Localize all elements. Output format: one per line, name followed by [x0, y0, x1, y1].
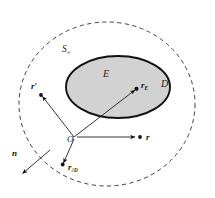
point-r	[138, 135, 142, 139]
vector-n-line	[23, 150, 51, 174]
point-r-prime	[39, 93, 43, 97]
label-e: E	[102, 68, 109, 79]
label-d: D	[160, 78, 169, 89]
label-vector-n: n	[12, 148, 17, 158]
figure-container: S∞ D E O r′ rE r r∂D n	[0, 0, 215, 198]
inner-region-e	[66, 56, 170, 118]
label-vector-r-dd: r∂D	[68, 162, 78, 173]
label-vector-r-prime: r′	[31, 81, 38, 91]
point-r-dd	[61, 163, 65, 167]
geometry-diagram: S∞ D E O r′ rE r r∂D n	[0, 0, 215, 198]
label-s-infinity: S∞	[62, 44, 71, 55]
label-origin-o: O	[67, 134, 74, 144]
label-vector-r: r	[146, 132, 150, 142]
point-r-e	[134, 87, 138, 91]
vector-r-prime-line	[43, 97, 75, 138]
